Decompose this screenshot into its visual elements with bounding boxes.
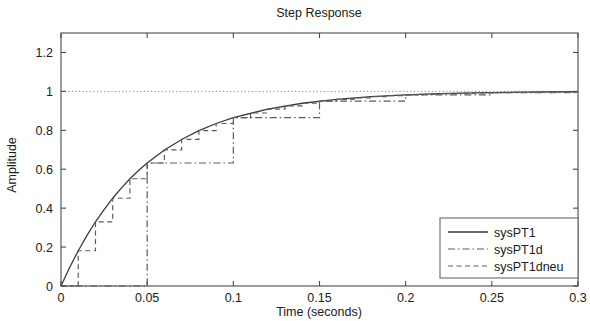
step-response-figure: Step Response Amplitude Time (seconds) 0…: [0, 0, 590, 321]
legend-label-sysPT1d: sysPT1d: [494, 243, 543, 257]
x-tick-label: 0.05: [135, 291, 159, 305]
y-axis-label-group: Amplitude: [5, 137, 19, 193]
x-tick-label: 0.2: [397, 291, 414, 305]
y-tick-label: 0: [46, 280, 53, 294]
x-tick-label: 0.1: [225, 291, 242, 305]
x-axis-label: Time (seconds): [276, 305, 362, 319]
y-tick-label: 0.8: [36, 124, 53, 138]
legend-label-sysPT1dneu: sysPT1dneu: [494, 260, 564, 274]
y-tick-label: 1: [46, 85, 53, 99]
y-axis-label: Amplitude: [5, 137, 19, 193]
y-tick-label: 1.2: [36, 46, 53, 60]
y-tick-label: 0.2: [36, 241, 53, 255]
x-tick-label: 0.25: [480, 291, 504, 305]
chart-legend[interactable]: sysPT1sysPT1dsysPT1dneu: [440, 218, 578, 278]
x-tick-label: 0.3: [569, 291, 586, 305]
x-tick-label: 0.15: [307, 291, 331, 305]
chart-title-group: Step Response: [276, 6, 362, 20]
legend-label-sysPT1: sysPT1: [494, 226, 536, 240]
x-axis-label-group: Time (seconds): [276, 305, 362, 319]
x-tick-label: 0: [58, 291, 65, 305]
y-tick-label: 0.6: [36, 163, 53, 177]
chart-title: Step Response: [276, 6, 362, 20]
chart-canvas: Step Response Amplitude Time (seconds) 0…: [0, 0, 590, 321]
y-tick-label: 0.4: [36, 202, 53, 216]
